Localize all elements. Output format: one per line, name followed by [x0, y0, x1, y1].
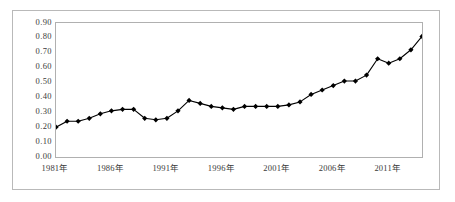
data-point-marker	[253, 104, 258, 109]
data-point-marker	[386, 61, 391, 66]
data-point-marker	[220, 105, 225, 110]
plot-area	[55, 22, 423, 158]
x-tick-label: 1991年	[152, 161, 179, 173]
y-tick-label: 0.80	[16, 32, 52, 41]
data-point-marker	[98, 111, 103, 116]
y-tick-label: 0.50	[16, 77, 52, 86]
y-tick-label: 0.20	[16, 122, 52, 131]
x-tick-label: 1981年	[42, 161, 69, 173]
x-tick-label: 2006年	[319, 161, 346, 173]
data-point-marker	[87, 116, 92, 121]
data-point-marker	[242, 104, 247, 109]
y-axis: 0.900.800.700.600.500.400.300.200.100.00	[14, 22, 52, 158]
data-point-marker	[275, 104, 280, 109]
data-point-marker	[353, 78, 358, 83]
x-axis: 1981年1986年1991年1996年2001年2006年2011年	[55, 161, 423, 179]
y-tick-label: 0.30	[16, 107, 52, 116]
series-markers	[56, 34, 422, 130]
data-point-marker	[342, 78, 347, 83]
y-tick-label: 0.70	[16, 47, 52, 56]
y-tick-label: 0.60	[16, 62, 52, 71]
data-point-marker	[320, 87, 325, 92]
x-tick-label: 1986年	[97, 161, 124, 173]
data-point-marker	[286, 102, 291, 107]
y-tick-label: 0.00	[16, 152, 52, 161]
x-tick-label: 2001年	[263, 161, 290, 173]
data-point-marker	[198, 101, 203, 106]
x-tick-label: 2011年	[374, 161, 401, 173]
y-tick-label: 0.10	[16, 137, 52, 146]
data-point-marker	[331, 83, 336, 88]
series-line	[56, 36, 422, 127]
y-tick-label: 0.90	[16, 18, 52, 27]
data-point-marker	[264, 104, 269, 109]
data-point-marker	[231, 107, 236, 112]
chart-figure: 0.900.800.700.600.500.400.300.200.100.00…	[0, 0, 455, 202]
data-point-marker	[56, 125, 59, 130]
x-tick-label: 1996年	[208, 161, 235, 173]
data-point-marker	[64, 119, 69, 124]
data-point-marker	[76, 119, 81, 124]
data-point-marker	[209, 104, 214, 109]
line-series-svg	[56, 23, 422, 157]
data-point-marker	[153, 117, 158, 122]
y-tick-label: 0.40	[16, 92, 52, 101]
data-point-marker	[120, 107, 125, 112]
data-point-marker	[109, 108, 114, 113]
